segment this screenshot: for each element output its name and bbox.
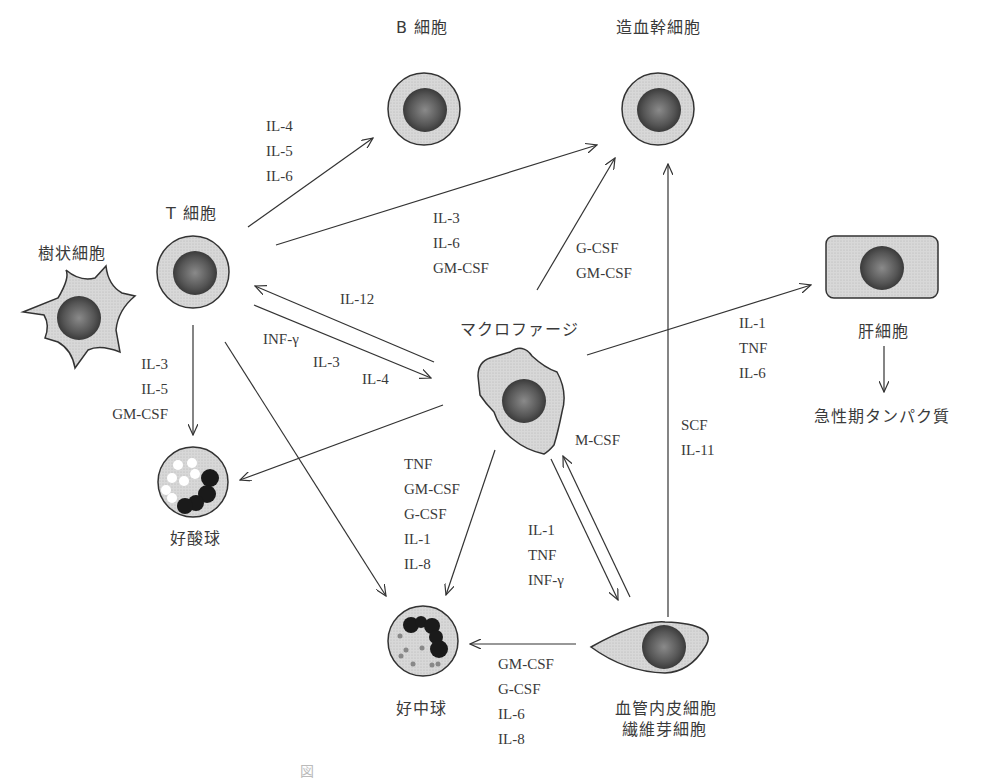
- cytokines-macrophage-to-hepatocyte: IL-1 TNF IL-6: [739, 311, 767, 386]
- neutrophil-icon: [388, 606, 458, 676]
- t-cell-label: T 細胞: [166, 200, 217, 224]
- cytokines-macrophage-to-neutrophil: TNF GM-CSF G-CSF IL-1 IL-8: [404, 452, 460, 577]
- stem-cell-label: 造血幹細胞: [616, 14, 701, 38]
- dendritic-cell-label: 樹状細胞: [38, 240, 106, 264]
- cytokine-inf-gamma: INF-γ: [263, 327, 299, 352]
- stem-cell-icon: [622, 73, 694, 145]
- macrophage-label: マクロファージ: [460, 316, 579, 340]
- cytokine-il3: IL-3: [313, 350, 340, 375]
- arrow-macrophage-to-hepatocyte: [587, 285, 811, 355]
- eosinophil-icon: [158, 447, 228, 517]
- cytokines-macrophage-to-endothelial: IL-1 TNF INF-γ: [528, 518, 564, 593]
- cytokines-endothelial-to-macrophage: M-CSF: [575, 428, 620, 453]
- cytokines-macrophage-to-t: IL-12: [340, 287, 374, 312]
- cytokines-endothelial-to-stem: SCF IL-11: [681, 413, 715, 463]
- cytokines-t-to-b: IL-4 IL-5 IL-6: [266, 114, 293, 189]
- cytokines-t-to-stem: IL-3 IL-6 GM-CSF: [433, 206, 489, 281]
- acute-phase-protein-label: 急性期タンパク質: [814, 403, 950, 427]
- endothelial-cell-icon: [591, 622, 708, 673]
- arrow-endothelial-to-macrophage: [563, 456, 630, 597]
- cytokines-endothelial-to-neutrophil: GM-CSF G-CSF IL-6 IL-8: [498, 652, 554, 752]
- b-cell-label: B 細胞: [396, 14, 448, 38]
- neutrophil-label: 好中球: [396, 695, 447, 719]
- cytokines-t-to-eosinophil: IL-3 IL-5 GM-CSF: [100, 352, 168, 427]
- macrophage-icon: [478, 348, 564, 454]
- fibroblast-label: 繊維芽細胞: [622, 716, 707, 740]
- b-cell-icon: [388, 73, 460, 145]
- eosinophil-label: 好酸球: [170, 525, 221, 549]
- figure-caption: 図: [300, 760, 314, 780]
- hepatocyte-label: 肝細胞: [858, 318, 909, 342]
- t-cell-icon: [157, 236, 229, 308]
- hepatocyte-icon: [826, 236, 938, 298]
- cytokines-macrophage-to-stem: G-CSF GM-CSF: [576, 236, 632, 286]
- cytokine-il4: IL-4: [362, 367, 389, 392]
